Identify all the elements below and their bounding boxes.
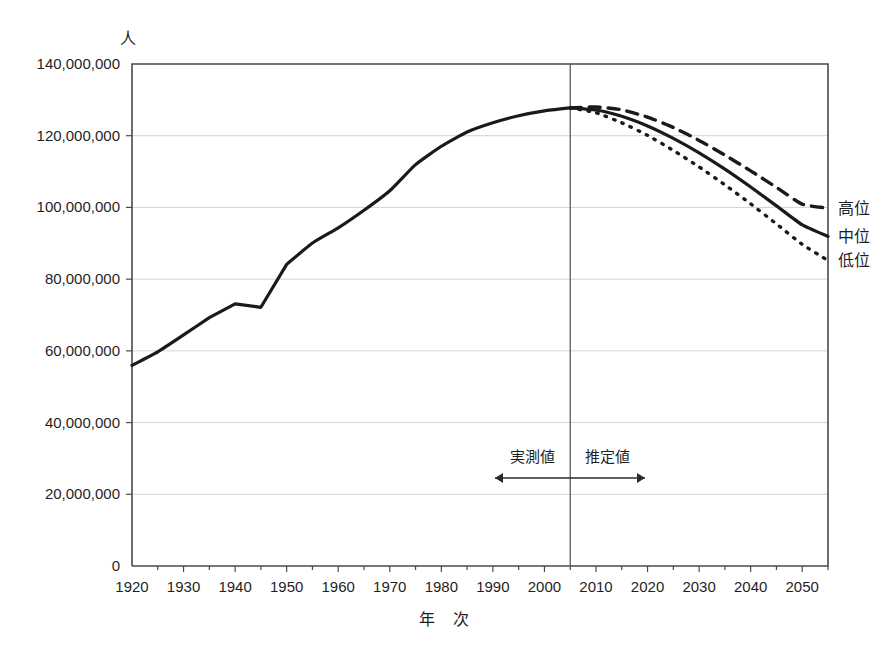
x-axis-tick-label: 2010 bbox=[579, 578, 612, 595]
series-solid bbox=[132, 108, 570, 365]
x-axis-tick-label: 1960 bbox=[322, 578, 355, 595]
x-axis-tick-label: 1970 bbox=[373, 578, 406, 595]
series-solid bbox=[570, 108, 828, 236]
legend-label-dashed: 高位 bbox=[838, 199, 870, 218]
x-axis-tick-label: 1930 bbox=[167, 578, 200, 595]
y-axis-unit-label: 人 bbox=[120, 29, 136, 48]
x-axis-tick-label: 1940 bbox=[218, 578, 251, 595]
population-projection-chart: 020,000,00040,000,00060,000,00080,000,00… bbox=[0, 0, 893, 658]
series-dotted bbox=[570, 108, 828, 261]
y-axis-tick-label: 140,000,000 bbox=[37, 55, 120, 72]
x-axis-title: 年 次 bbox=[419, 610, 474, 629]
annotation-observed-label: 実測値 bbox=[510, 448, 555, 466]
y-axis-tick-label: 60,000,000 bbox=[45, 342, 120, 359]
y-axis-tick-label: 100,000,000 bbox=[37, 198, 120, 215]
x-axis-tick-label: 1920 bbox=[115, 578, 148, 595]
grid-lines bbox=[132, 136, 828, 495]
x-axis-tick-labels: 1920193019401950196019701980199020002010… bbox=[115, 578, 819, 595]
y-axis-tick-label: 20,000,000 bbox=[45, 485, 120, 502]
x-axis-tick-label: 2020 bbox=[631, 578, 664, 595]
annotation-arrow-left-head bbox=[495, 473, 503, 483]
series-dashed bbox=[570, 107, 828, 208]
y-axis-tick-label: 0 bbox=[112, 557, 120, 574]
x-axis-tick-label: 1980 bbox=[425, 578, 458, 595]
y-axis-tick-label: 40,000,000 bbox=[45, 414, 120, 431]
chart-canvas: 020,000,00040,000,00060,000,00080,000,00… bbox=[0, 0, 893, 658]
legend-label-dotted: 低位 bbox=[838, 251, 870, 270]
x-axis-tick-label: 2050 bbox=[786, 578, 819, 595]
x-axis-tick-label: 1950 bbox=[270, 578, 303, 595]
annotation-arrow-right-head bbox=[637, 473, 645, 483]
x-axis-ticks bbox=[158, 566, 828, 572]
x-axis-tick-label: 1990 bbox=[476, 578, 509, 595]
y-axis-tick-label: 80,000,000 bbox=[45, 270, 120, 287]
y-axis-tick-labels: 020,000,00040,000,00060,000,00080,000,00… bbox=[37, 55, 120, 574]
x-axis-tick-label: 2000 bbox=[528, 578, 561, 595]
data-series bbox=[132, 107, 828, 365]
legend-label-solid: 中位 bbox=[838, 227, 870, 246]
plot-border bbox=[132, 64, 828, 566]
legend: 高位中位低位 bbox=[838, 199, 870, 270]
y-axis-tick-label: 120,000,000 bbox=[37, 127, 120, 144]
y-axis-ticks bbox=[126, 136, 132, 495]
x-axis-tick-label: 2030 bbox=[682, 578, 715, 595]
x-axis-tick-label: 2040 bbox=[734, 578, 767, 595]
plot-frame bbox=[132, 64, 828, 566]
annotation-estimated-label: 推定値 bbox=[585, 448, 630, 466]
